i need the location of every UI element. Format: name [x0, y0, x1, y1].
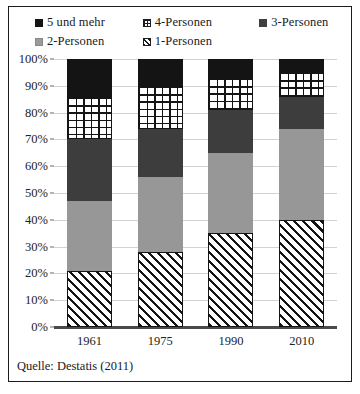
- bar-segment-4-personen[interactable]: [67, 97, 112, 140]
- chart-legend: 5 und mehr 4-Personen 3-Personen 2-Perso…: [9, 7, 353, 53]
- legend-label: 3-Personen: [271, 16, 328, 29]
- legend-label: 1-Personen: [155, 35, 212, 48]
- x-axis-tick-label: 1961: [67, 335, 112, 348]
- bar-segment-4-personen[interactable]: [279, 72, 324, 96]
- y-axis-tick-mark: [50, 139, 54, 140]
- bar-1961[interactable]: 1961: [67, 59, 112, 327]
- y-axis-tick-mark: [50, 59, 54, 60]
- x-axis-tick-label: 2010: [279, 335, 324, 348]
- y-axis-tick-label: 30%: [25, 241, 48, 253]
- source-note: Quelle: Destatis (2011): [17, 359, 133, 373]
- black-square-icon: [35, 19, 43, 27]
- grid-pattern-icon: [143, 19, 151, 27]
- x-axis-tick-label: 1990: [208, 335, 253, 348]
- bar-segment-2-personen[interactable]: [67, 201, 112, 271]
- y-axis-tick-label: 90%: [25, 80, 48, 92]
- y-axis-tick-label: 100%: [19, 53, 48, 65]
- legend-row: 2-Personen 1-Personen: [13, 32, 349, 51]
- mid-gray-square-icon: [35, 38, 43, 46]
- bar-segment-2-personen[interactable]: [138, 177, 183, 252]
- bar-segment-5-und-mehr[interactable]: [138, 59, 183, 86]
- legend-label: 5 und mehr: [47, 16, 105, 29]
- bar-segment-4-personen[interactable]: [208, 78, 253, 110]
- figure-frame: 5 und mehr 4-Personen 3-Personen 2-Perso…: [8, 6, 352, 382]
- bar-segment-3-personen[interactable]: [67, 139, 112, 201]
- plot-area: 0%10%20%30%40%50%60%70%80%90%100%1961197…: [54, 59, 337, 327]
- y-axis-tick-mark: [50, 166, 54, 167]
- y-axis-tick-label: 10%: [25, 294, 48, 306]
- y-axis-tick-mark: [50, 273, 54, 274]
- y-axis-tick-mark: [50, 193, 54, 194]
- bar-segment-1-personen[interactable]: [279, 220, 324, 327]
- bar-segment-3-personen[interactable]: [138, 129, 183, 177]
- legend-item-4-personen[interactable]: 4-Personen: [129, 16, 251, 29]
- legend-item-1-personen[interactable]: 1-Personen: [129, 35, 251, 48]
- x-axis-tick-label: 1975: [138, 335, 183, 348]
- y-axis-tick-label: 80%: [25, 107, 48, 119]
- y-axis-tick-mark: [50, 246, 54, 247]
- y-axis-tick-label: 0%: [31, 321, 48, 333]
- legend-item-2-personen[interactable]: 2-Personen: [13, 35, 129, 48]
- y-axis-tick-mark: [50, 112, 54, 113]
- y-axis-tick-mark: [50, 219, 54, 220]
- bar-1975[interactable]: 1975: [138, 59, 183, 327]
- legend-label: 4-Personen: [155, 16, 212, 29]
- y-axis-tick-label: 70%: [25, 133, 48, 145]
- bar-segment-5-und-mehr[interactable]: [279, 59, 324, 72]
- legend-item-5-und-mehr[interactable]: 5 und mehr: [13, 16, 129, 29]
- bar-segment-1-personen[interactable]: [208, 233, 253, 327]
- bar-segment-3-personen[interactable]: [279, 97, 324, 129]
- bar-2010[interactable]: 2010: [279, 59, 324, 327]
- legend-item-3-personen[interactable]: 3-Personen: [251, 16, 349, 29]
- y-axis-tick-label: 50%: [25, 187, 48, 199]
- dark-gray-square-icon: [259, 19, 267, 27]
- bar-segment-1-personen[interactable]: [138, 252, 183, 327]
- y-axis-tick-mark: [50, 85, 54, 86]
- y-axis-tick-mark: [50, 300, 54, 301]
- bar-segment-1-personen[interactable]: [67, 271, 112, 327]
- bar-segment-2-personen[interactable]: [279, 129, 324, 220]
- y-axis-tick-label: 60%: [25, 160, 48, 172]
- bar-segment-2-personen[interactable]: [208, 153, 253, 233]
- bar-1990[interactable]: 1990: [208, 59, 253, 327]
- diagonal-hatch-icon: [143, 38, 151, 46]
- y-axis-tick-label: 40%: [25, 214, 48, 226]
- y-axis-tick-label: 20%: [25, 267, 48, 279]
- figure-container: 5 und mehr 4-Personen 3-Personen 2-Perso…: [0, 0, 360, 394]
- bar-segment-3-personen[interactable]: [208, 110, 253, 153]
- legend-row: 5 und mehr 4-Personen 3-Personen: [13, 13, 349, 32]
- bar-segment-5-und-mehr[interactable]: [67, 59, 112, 97]
- bar-segment-5-und-mehr[interactable]: [208, 59, 253, 78]
- bar-segment-4-personen[interactable]: [138, 86, 183, 129]
- legend-label: 2-Personen: [47, 35, 104, 48]
